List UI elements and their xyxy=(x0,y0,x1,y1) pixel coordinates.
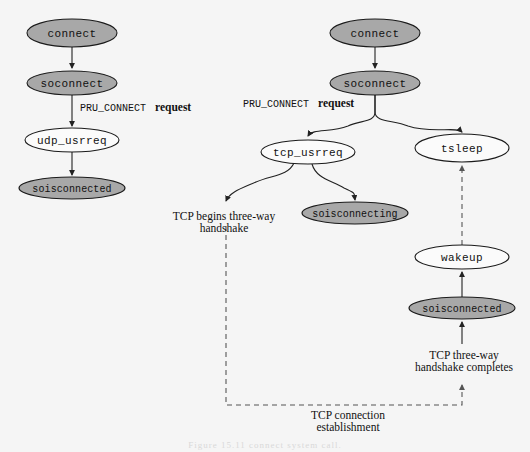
annotation-tcp-handshake-completes: TCP three-way handshake completes xyxy=(415,349,514,374)
node-tcp-usrreq-label: tcp_usrreq xyxy=(273,147,343,159)
node-tcp-usrreq[interactable]: tcp_usrreq xyxy=(261,140,355,164)
flow-diagram-svg: connect soconnect udp_usrreq soisconnect… xyxy=(0,0,530,452)
diagram-canvas: connect soconnect udp_usrreq soisconnect… xyxy=(0,0,530,452)
node-udp-usrreq[interactable]: udp_usrreq xyxy=(25,128,119,152)
node-udp-soisconnected-label: soisconnected xyxy=(32,184,111,195)
node-udp-usrreq-label: udp_usrreq xyxy=(37,135,107,147)
annotation-tcp-begins-handshake: TCP begins three-way handshake xyxy=(173,210,276,234)
edge-label-tcp-pru-connect-bold: request xyxy=(318,97,354,110)
node-tcp-connect[interactable]: connect xyxy=(330,19,420,47)
annotation-tcp-handshake-completes-line2: handshake completes xyxy=(415,361,514,374)
figure-caption: Figure 15.11 connect system call. xyxy=(0,440,530,450)
edge-label-udp-pru-connect-mono: PRU_CONNECT xyxy=(80,103,146,114)
edge-label-tcp-pru-connect-mono: PRU_CONNECT xyxy=(243,99,309,110)
annotation-tcp-connection-establishment-line2: establishment xyxy=(316,421,380,433)
annotation-tcp-begins-handshake-line2: handshake xyxy=(200,222,249,234)
node-udp-soconnect[interactable]: soconnect xyxy=(27,71,117,95)
edge-tcp-soconnect-to-tsleep xyxy=(375,95,462,132)
node-udp-soisconnected[interactable]: soisconnected xyxy=(19,177,125,199)
node-wakeup-label: wakeup xyxy=(441,252,483,264)
node-tsleep[interactable]: tsleep xyxy=(415,134,509,162)
node-udp-connect-label: connect xyxy=(47,28,96,40)
edge-label-udp-pru-connect: PRU_CONNECT request xyxy=(80,101,191,114)
node-udp-connect[interactable]: connect xyxy=(27,19,117,47)
node-tsleep-label: tsleep xyxy=(441,143,483,155)
node-tcp-soconnect[interactable]: soconnect xyxy=(330,71,420,95)
node-udp-soconnect-label: soconnect xyxy=(40,78,103,90)
edge-label-tcp-pru-connect: PRU_CONNECT request xyxy=(243,97,354,110)
node-tcp-soisconnected[interactable]: soisconnected xyxy=(409,297,515,319)
edge-tcp-usrreq-to-soisconnecting xyxy=(312,164,355,200)
node-tcp-connect-label: connect xyxy=(350,28,399,40)
node-tcp-soisconnected-label: soisconnected xyxy=(422,304,501,315)
node-soisconnecting-label: soisconnecting xyxy=(312,209,397,220)
annotation-tcp-connection-establishment-line1: TCP connection xyxy=(311,409,385,421)
edge-label-udp-pru-connect-bold: request xyxy=(155,101,191,114)
annotation-tcp-connection-establishment: TCP connection establishment xyxy=(311,409,385,433)
node-soisconnecting[interactable]: soisconnecting xyxy=(302,202,408,224)
node-tcp-soconnect-label: soconnect xyxy=(343,78,406,90)
edge-tcp-usrreq-to-handshake-note xyxy=(226,163,294,201)
node-wakeup[interactable]: wakeup xyxy=(415,245,509,269)
